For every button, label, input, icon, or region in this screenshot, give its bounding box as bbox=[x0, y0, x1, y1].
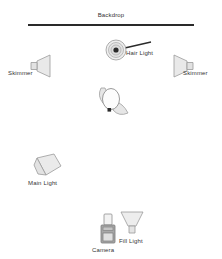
skimmer-right-label: Skimmer bbox=[183, 70, 208, 77]
softbox-angled-icon bbox=[33, 153, 63, 181]
skimmer-left-node[interactable] bbox=[30, 54, 52, 78]
camera-label: Camera bbox=[92, 247, 114, 254]
fill-light-label: Fill Light bbox=[119, 238, 143, 245]
main-light-label: Main Light bbox=[28, 180, 57, 187]
softbox-left-icon bbox=[30, 54, 52, 78]
subject-figure-icon bbox=[95, 86, 131, 120]
camera-icon bbox=[99, 213, 117, 245]
main-light-node[interactable] bbox=[33, 153, 63, 181]
backdrop-bar[interactable] bbox=[28, 24, 194, 26]
hair-light-label: Hair Light bbox=[126, 50, 153, 57]
backdrop-label: Backdrop bbox=[0, 12, 222, 19]
softbox-down-icon bbox=[120, 210, 144, 235]
lighting-diagram-canvas: Backdrop Hair Light Skimmer Skimmer bbox=[0, 0, 222, 259]
skimmer-left-label: Skimmer bbox=[8, 70, 33, 77]
subject-node[interactable] bbox=[95, 86, 131, 120]
fill-light-node[interactable] bbox=[120, 210, 144, 235]
camera-node[interactable] bbox=[99, 213, 117, 245]
